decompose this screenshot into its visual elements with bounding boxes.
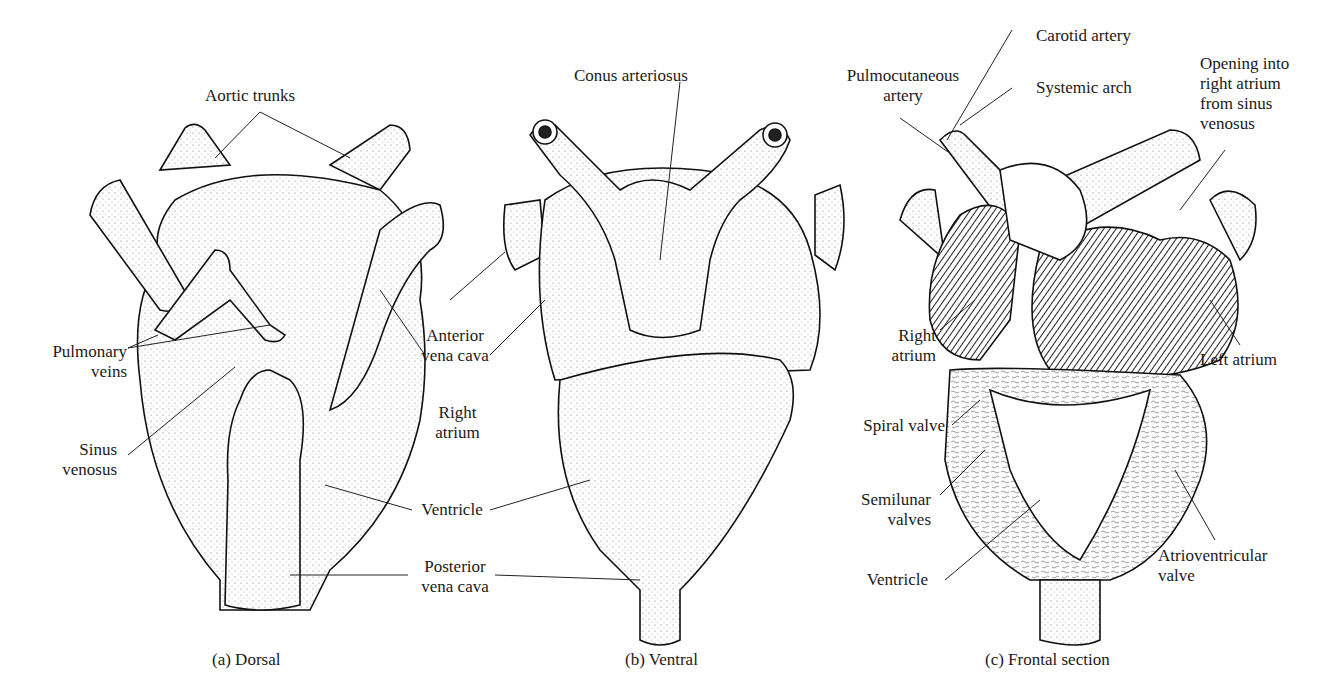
label-ventricle-shared: Ventricle [412, 500, 492, 520]
label-pulmocutaneous-artery: Pulmocutaneous artery [828, 66, 978, 106]
label-ventricle-section: Ventricle [830, 570, 928, 590]
label-conus-arteriosus: Conus arteriosus [574, 66, 688, 86]
caption-ventral: (b) Ventral [625, 650, 698, 670]
label-systemic-arch: Systemic arch [1036, 78, 1132, 98]
label-anterior-vena-cava: Anterior vena cava [410, 326, 500, 366]
label-atrioventricular-valve: Atrioventricular valve [1158, 546, 1268, 586]
label-pulmonary-veins: Pulmonary veins [22, 342, 127, 382]
label-carotid-artery: Carotid artery [1036, 26, 1131, 46]
label-semilunar-valves: Semilunar valves [830, 490, 931, 530]
caption-frontal-section: (c) Frontal section [985, 650, 1110, 670]
caption-dorsal: (a) Dorsal [212, 650, 280, 670]
label-right-atrium-section: Right atrium [850, 326, 936, 366]
label-sinus-venosus: Sinus venosus [22, 440, 117, 480]
heart-illustration [0, 0, 1341, 687]
label-spiral-valve: Spiral valve [830, 416, 945, 436]
dorsal-view [90, 124, 443, 610]
ventral-view [504, 120, 844, 645]
label-posterior-vena-cava: Posterior vena cava [410, 557, 500, 597]
label-right-atrium-shared: Right atrium [420, 403, 495, 443]
label-left-atrium: Left atrium [1200, 350, 1277, 370]
label-aortic-trunks: Aortic trunks [205, 86, 295, 106]
label-opening-into-right-atrium: Opening into right atrium from sinus ven… [1200, 54, 1289, 134]
